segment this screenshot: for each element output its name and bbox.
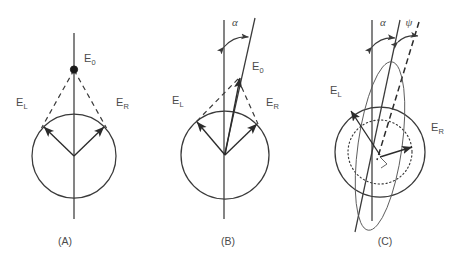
panel-c-polarization-ellipse xyxy=(346,59,413,233)
panel-c-right-angle-mark xyxy=(380,157,387,168)
panel-a-label-e0: E xyxy=(84,52,91,64)
panel-b: α E 0 E L E R (B) xyxy=(172,16,280,247)
panel-c-label-er: E xyxy=(431,121,438,133)
panel-b-label-alpha: α xyxy=(232,16,238,28)
panel-c: α ψ E L E R (C) xyxy=(330,16,445,247)
panel-a-caption: (A) xyxy=(58,235,72,247)
panel-a-vector-el xyxy=(44,127,74,156)
panel-c-caption: (C) xyxy=(378,235,393,247)
figure-container: E 0 E L E R (A) α xyxy=(0,0,466,253)
panel-b-caption: (B) xyxy=(221,235,235,247)
panel-b-label-er: E xyxy=(266,96,273,108)
panel-c-dashed-axis xyxy=(377,22,419,160)
figure-svg: E 0 E L E R (A) α xyxy=(0,0,466,253)
panel-a-label-e0-sub: 0 xyxy=(92,58,96,67)
panel-a-dashed-right xyxy=(74,70,107,128)
panel-a-e0-dot xyxy=(70,66,77,73)
panel-c-alpha-arc xyxy=(372,38,395,47)
panel-a-label-er-sub: R xyxy=(124,102,130,111)
panel-b-label-e0: E xyxy=(252,60,259,72)
panel-c-tilted-axis xyxy=(355,20,400,232)
panel-a: E 0 E L E R (A) xyxy=(16,33,130,247)
panel-c-vector-er xyxy=(380,147,412,157)
panel-a-vector-er xyxy=(74,127,104,156)
panel-b-alpha-arc xyxy=(224,37,249,47)
panel-b-label-el: E xyxy=(172,94,179,106)
panel-c-label-el: E xyxy=(330,84,337,96)
panel-a-dashed-left xyxy=(42,70,75,128)
panel-c-label-er-sub: R xyxy=(439,127,445,136)
panel-c-label-alpha: α xyxy=(380,16,386,28)
panel-a-label-er: E xyxy=(116,96,123,108)
panel-c-label-el-sub: L xyxy=(338,90,342,99)
panel-b-label-el-sub: L xyxy=(180,100,184,109)
panel-b-label-e0-sub: 0 xyxy=(260,66,264,75)
panel-c-label-psi: ψ xyxy=(406,16,413,28)
panel-b-dashed-left xyxy=(195,79,238,123)
panel-b-vector-el xyxy=(197,122,225,155)
panel-b-label-er-sub: R xyxy=(274,102,280,111)
panel-a-label-el: E xyxy=(16,96,23,108)
panel-a-label-el-sub: L xyxy=(24,102,28,111)
